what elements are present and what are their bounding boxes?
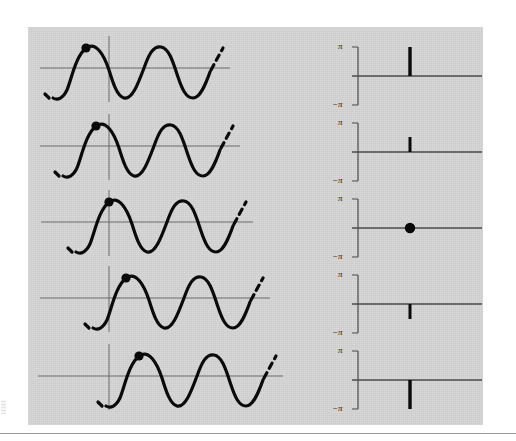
phase-plot-2 <box>334 114 484 190</box>
wave-curve-3 <box>76 200 233 253</box>
wave-curve-1 <box>53 46 210 99</box>
phase-ytick-minus-pi-2: −π <box>332 176 343 185</box>
figure-root: π −π π −π π −π <box>0 0 516 441</box>
phase-row-3: π −π <box>334 190 484 266</box>
wave-dash-start-4 <box>85 324 89 328</box>
wave-dash-end-5 <box>264 356 276 378</box>
phase-plot-5 <box>334 342 484 418</box>
phase-ytick-minus-pi-4: −π <box>332 328 343 337</box>
wave-plot-3 <box>63 186 253 258</box>
phase-ytick-pi-1: π <box>338 42 343 51</box>
wave-dash-start-2 <box>55 172 59 176</box>
wave-dash-end-4 <box>251 278 263 300</box>
wave-row-3 <box>63 186 253 258</box>
phase-plot-1 <box>334 38 484 114</box>
wave-row-1 <box>40 32 230 104</box>
wave-plot-2 <box>50 110 240 182</box>
phase-row-4: π −π <box>334 266 484 342</box>
phase-ytick-minus-pi-5: −π <box>332 404 343 413</box>
wave-row-4 <box>80 262 270 334</box>
wave-dash-end-1 <box>211 48 223 70</box>
wave-peak-marker-1 <box>81 43 90 52</box>
wave-peak-marker-5 <box>134 351 143 360</box>
wave-dash-start-5 <box>98 402 102 406</box>
wave-dash-end-3 <box>234 202 246 224</box>
wave-peak-marker-4 <box>121 273 130 282</box>
phase-plot-4 <box>334 266 484 342</box>
phase-row-1: π −π <box>334 38 484 114</box>
wave-plot-1 <box>40 32 230 104</box>
phase-ytick-pi-4: π <box>338 270 343 279</box>
panels-container: π −π π −π π −π <box>0 0 516 441</box>
phase-row-2: π −π <box>334 114 484 190</box>
wave-row-2 <box>50 110 240 182</box>
phase-plot-3 <box>334 190 484 266</box>
wave-plot-5 <box>93 340 283 412</box>
wave-plot-4 <box>80 262 270 334</box>
wave-dash-start-1 <box>45 94 49 98</box>
phase-row-5: π −π <box>334 342 484 418</box>
phase-ytick-pi-5: π <box>338 346 343 355</box>
phase-stem-marker-3 <box>405 223 415 233</box>
wave-curve-4 <box>93 276 250 329</box>
wave-curve-2 <box>63 124 220 177</box>
wave-dash-start-3 <box>68 248 72 252</box>
wave-row-5 <box>93 340 283 412</box>
page-bottom-rule <box>0 433 516 434</box>
wave-curve-5 <box>106 354 263 407</box>
phase-ytick-minus-pi-3: −π <box>332 252 343 261</box>
wave-dash-end-2 <box>221 126 233 148</box>
wave-peak-marker-3 <box>104 197 113 206</box>
phase-ytick-pi-3: π <box>338 194 343 203</box>
phase-ytick-pi-2: π <box>338 118 343 127</box>
phase-ytick-minus-pi-1: −π <box>332 100 343 109</box>
page-edge-artifact <box>1 400 6 414</box>
wave-peak-marker-2 <box>91 121 100 130</box>
